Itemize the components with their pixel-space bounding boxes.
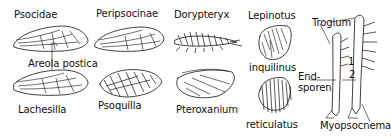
label-psocidae: Psocidae (14, 9, 57, 20)
peripsocinae-wing-drawing (95, 27, 164, 51)
lachesilla-wing-drawing (14, 70, 88, 95)
label-endsporen-line2: sporen (298, 82, 331, 93)
label-inquilinus: inquilinus (249, 62, 296, 73)
label-lachesilla: Lachesilla (18, 104, 66, 115)
label-trogium: Trogium (312, 17, 351, 28)
label-dorypteryx: Dorypteryx (174, 9, 229, 20)
psoquilla-wing-drawing (100, 70, 162, 97)
reticulatus-wing-drawing (259, 78, 291, 114)
dorypteryx-wing-drawing (175, 32, 242, 53)
label-psoquilla: Psoquilla (98, 100, 141, 111)
pteroxanium-wing-drawing (177, 69, 235, 98)
trogium-legs-drawing (310, 15, 377, 122)
label-peripsocinae: Peripsocinae (96, 8, 158, 19)
label-pteroxanium: Pteroxanium (176, 104, 238, 115)
label-reticulatus: reticulatus (246, 119, 298, 130)
label-lepinotus: Lepinotus (248, 10, 296, 21)
label-marker-1: 1 (348, 56, 354, 67)
label-endsporen-line1: End- (298, 71, 320, 82)
label-myopsocnema: Myopsocnema (320, 120, 391, 131)
label-areola-postica: Areola postica (28, 58, 98, 69)
psocidae-wing-drawing (14, 26, 88, 51)
label-marker-2: 2 (349, 69, 355, 80)
lepinotus-wing-drawing (259, 25, 291, 59)
